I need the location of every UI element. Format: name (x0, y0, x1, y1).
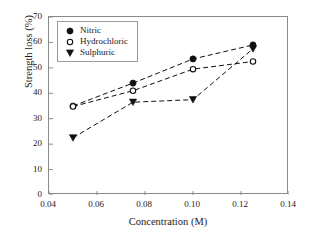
y-tick-label: 0 (14, 190, 42, 199)
data-point-filled-circle (67, 27, 73, 33)
legend-marker-filled-triangle-down (65, 48, 75, 58)
legend-marker-filled-circle (65, 26, 75, 36)
data-point-filled-triangle-down (189, 97, 196, 104)
legend-marker-open-circle (65, 37, 75, 47)
legend-item-label: Sulphuric (77, 48, 115, 57)
legend-item-sulphuric: Sulphuric (63, 47, 128, 58)
series-line-sulphuric (73, 49, 253, 138)
chart-legend: NitricHydrochloricSulphuric (57, 21, 138, 62)
y-axis-title: Strength loss (%) (23, 0, 34, 132)
x-axis-title: Concentration (M) (48, 216, 288, 227)
data-point-filled-circle (130, 80, 136, 86)
data-point-filled-triangle-down (69, 135, 76, 142)
data-point-filled-circle (190, 56, 196, 62)
legend-marker-slot (63, 26, 77, 36)
data-point-open-circle (190, 66, 195, 71)
x-tick-label: 0.12 (232, 200, 248, 209)
data-point-filled-triangle-down (66, 49, 73, 56)
legend-marker-slot (63, 48, 77, 58)
legend-marker-slot (63, 37, 77, 47)
legend-item-nitric: Nitric (63, 25, 128, 36)
chart-figure: 010203040506070 0.040.060.080.100.120.14… (0, 0, 314, 238)
data-point-open-circle (67, 39, 72, 44)
y-tick-label: 10 (14, 164, 42, 173)
x-tick-label: 0.08 (136, 200, 152, 209)
legend-item-hydrochloric: Hydrochloric (63, 36, 128, 47)
data-point-open-circle (70, 104, 75, 109)
legend-item-label: Nitric (77, 26, 101, 35)
legend-item-label: Hydrochloric (77, 37, 128, 46)
x-tick-label: 0.10 (184, 200, 200, 209)
data-point-open-circle (130, 88, 135, 93)
x-tick-label: 0.06 (88, 200, 104, 209)
x-tick-label: 0.04 (40, 200, 56, 209)
series-line-hydrochloric (73, 62, 253, 107)
y-tick-label: 20 (14, 139, 42, 148)
x-tick-label: 0.14 (280, 200, 296, 209)
data-point-open-circle (250, 59, 255, 64)
